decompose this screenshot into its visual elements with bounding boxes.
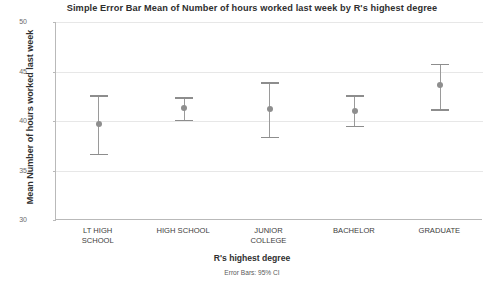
y-tick-mark <box>53 171 56 172</box>
plot-area: 3035404550 <box>55 22 482 220</box>
y-tick-mark <box>53 220 56 221</box>
mean-marker <box>437 82 443 88</box>
y-tick-mark <box>53 121 56 122</box>
y-tick-label: 40 <box>0 117 27 124</box>
error-bar-cap-lower <box>346 126 364 127</box>
chart-title: Simple Error Bar Mean of Number of hours… <box>0 3 504 13</box>
error-bar-cap-lower <box>431 109 449 110</box>
error-bar-group <box>164 22 204 220</box>
x-category-label: GRADUATE <box>384 226 494 236</box>
y-tick-label: 50 <box>0 18 27 25</box>
error-bar-cap-lower <box>261 137 279 138</box>
error-bar-cap-lower <box>90 154 108 155</box>
error-bar-chart: Simple Error Bar Mean of Number of hours… <box>0 0 504 290</box>
error-bar-group <box>335 22 375 220</box>
mean-marker <box>352 108 358 114</box>
error-bar-cap-upper <box>346 95 364 96</box>
error-bars-footnote: Error Bars: 95% CI <box>0 269 504 276</box>
error-bar-cap-upper <box>175 97 193 98</box>
error-bar-group <box>79 22 119 220</box>
error-bar-cap-upper <box>431 64 449 65</box>
mean-marker <box>96 121 102 127</box>
y-tick-label: 30 <box>0 216 27 223</box>
error-bar-cap-lower <box>175 120 193 121</box>
mean-marker <box>181 105 187 111</box>
mean-marker <box>267 106 273 112</box>
error-bar-group <box>420 22 460 220</box>
error-bar-cap-upper <box>90 95 108 96</box>
error-bar-group <box>250 22 290 220</box>
y-tick-label: 35 <box>0 167 27 174</box>
gridline <box>56 220 483 221</box>
error-bar-cap-upper <box>261 82 279 83</box>
x-axis-title: R's highest degree <box>0 253 504 263</box>
y-tick-mark <box>53 72 56 73</box>
y-tick-mark <box>53 22 56 23</box>
y-tick-label: 45 <box>0 68 27 75</box>
